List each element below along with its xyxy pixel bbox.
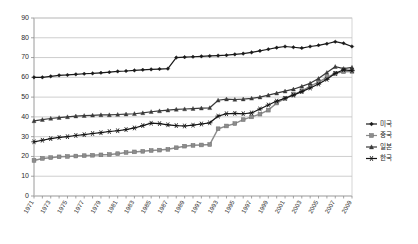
data-point-diamond-marker xyxy=(74,73,78,77)
x-tick-label: 1987 xyxy=(156,199,169,215)
data-point-square-marker xyxy=(49,156,53,160)
data-point-star-marker xyxy=(266,103,271,108)
data-point-star-marker xyxy=(199,122,204,127)
y-tick-label: 90 xyxy=(21,14,29,21)
data-point-square-marker xyxy=(370,134,374,138)
series-line xyxy=(34,67,352,121)
series-3 xyxy=(31,67,354,144)
data-point-diamond-marker xyxy=(149,68,153,72)
data-point-square-marker xyxy=(158,148,162,152)
x-tick-label: 1997 xyxy=(239,199,252,215)
chart-container: 0102030405060708090 19711973197519771979… xyxy=(0,0,418,244)
data-point-square-marker xyxy=(74,154,78,158)
data-point-diamond-marker xyxy=(66,73,70,77)
data-point-diamond-marker xyxy=(267,47,271,51)
data-point-diamond-marker xyxy=(191,55,195,59)
x-tick-label: 1995 xyxy=(223,199,236,215)
data-point-diamond-marker xyxy=(124,69,128,73)
data-point-square-marker xyxy=(208,143,212,147)
series-line xyxy=(34,42,352,78)
x-tick-label: 1981 xyxy=(106,199,119,215)
data-point-star-marker xyxy=(182,124,187,129)
data-point-square-marker xyxy=(266,108,270,112)
data-point-square-marker xyxy=(57,155,61,159)
data-point-square-marker xyxy=(250,115,254,119)
data-point-star-marker xyxy=(123,127,128,132)
data-point-star-marker xyxy=(107,129,112,134)
data-point-diamond-marker xyxy=(225,53,229,57)
y-tick-label: 40 xyxy=(21,113,29,120)
data-point-diamond-marker xyxy=(250,51,254,55)
data-point-star-marker xyxy=(257,107,262,112)
y-axis-tick-labels: 0102030405060708090 xyxy=(21,14,29,199)
data-point-star-marker xyxy=(369,156,375,161)
legend-item-0[interactable]: 미국 xyxy=(366,119,392,128)
series-line xyxy=(34,70,352,142)
data-point-square-marker xyxy=(133,150,137,154)
data-point-diamond-marker xyxy=(158,67,162,71)
data-point-diamond-marker xyxy=(216,54,220,58)
data-point-diamond-marker xyxy=(292,45,296,49)
y-tick-label: 30 xyxy=(21,133,29,140)
gridlines xyxy=(34,18,352,176)
data-point-diamond-marker xyxy=(41,76,45,80)
data-point-star-marker xyxy=(174,123,179,128)
data-point-square-marker xyxy=(258,112,262,116)
data-point-star-marker xyxy=(65,134,70,139)
data-point-diamond-marker xyxy=(108,70,112,74)
data-point-star-marker xyxy=(73,133,78,138)
data-point-diamond-marker xyxy=(275,46,279,50)
legend-item-1[interactable]: 중국 xyxy=(366,131,392,139)
data-point-square-marker xyxy=(91,153,95,157)
data-point-square-marker xyxy=(191,143,195,147)
x-tick-label: 1977 xyxy=(72,199,85,215)
data-point-star-marker xyxy=(56,135,61,140)
y-tick-label: 50 xyxy=(21,93,29,100)
y-tick-label: 80 xyxy=(21,34,29,41)
data-point-diamond-marker xyxy=(258,49,262,53)
x-tick-label: 1973 xyxy=(39,199,52,215)
y-tick-label: 0 xyxy=(25,192,29,199)
legend-label: 미국 xyxy=(380,119,392,128)
y-tick-label: 60 xyxy=(21,73,29,80)
data-point-square-marker xyxy=(107,153,111,157)
data-point-diamond-marker xyxy=(308,45,312,49)
legend-label: 한국 xyxy=(380,154,392,162)
data-point-star-marker xyxy=(90,131,95,136)
data-point-diamond-marker xyxy=(32,76,36,80)
y-tick-label: 20 xyxy=(21,152,29,159)
data-point-star-marker xyxy=(249,111,254,116)
x-tick-label: 1993 xyxy=(206,199,219,215)
legend-item-2[interactable]: 일본 xyxy=(366,142,392,151)
data-point-diamond-marker xyxy=(325,42,329,46)
data-point-diamond-marker xyxy=(317,43,321,47)
data-point-star-marker xyxy=(132,126,137,131)
x-tick-label: 1983 xyxy=(122,199,135,215)
data-point-square-marker xyxy=(66,155,70,159)
data-point-diamond-marker xyxy=(283,45,287,49)
data-point-square-marker xyxy=(199,143,203,147)
x-tick-label: 2003 xyxy=(290,199,303,215)
data-point-diamond-marker xyxy=(57,74,61,78)
data-point-square-marker xyxy=(40,157,44,161)
data-point-star-marker xyxy=(190,123,195,128)
data-point-diamond-marker xyxy=(241,52,245,56)
data-point-diamond-marker xyxy=(350,45,354,49)
legend-label: 중국 xyxy=(380,131,392,139)
chart-legend: 미국중국일본한국 xyxy=(366,119,392,163)
data-point-diamond-marker xyxy=(141,68,145,72)
data-point-square-marker xyxy=(166,147,170,151)
data-series-layer xyxy=(31,40,354,162)
data-point-square-marker xyxy=(149,149,153,153)
data-point-diamond-marker xyxy=(82,72,86,76)
x-tick-label: 1979 xyxy=(89,199,102,215)
data-point-star-marker xyxy=(40,138,45,143)
x-tick-label: 2009 xyxy=(340,199,353,215)
x-tick-label: 1999 xyxy=(256,199,269,215)
x-tick-label: 1971 xyxy=(22,199,35,215)
x-tick-label: 1985 xyxy=(139,199,152,215)
legend-item-3[interactable]: 한국 xyxy=(366,154,392,162)
data-point-star-marker xyxy=(148,121,153,126)
data-point-star-marker xyxy=(157,121,162,126)
data-point-star-marker xyxy=(165,122,170,127)
